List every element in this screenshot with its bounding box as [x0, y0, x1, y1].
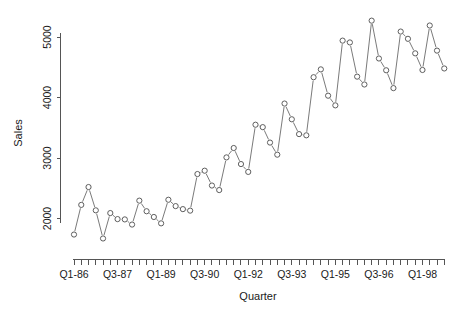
data-point-marker: Q1-93: 3055	[275, 152, 280, 157]
series-segment	[423, 29, 429, 67]
data-point-marker: Q2-96: 5270	[369, 18, 374, 23]
data-point-marker: Q3-86: 2520	[86, 184, 91, 189]
data-point-marker: Q2-90: 2735	[195, 171, 200, 176]
series-segment	[316, 72, 319, 75]
data-point-marker: Q1-98: 4455	[420, 67, 425, 72]
data-point-marker: Q2-89: 2310	[166, 197, 171, 202]
data-point-marker: Q2-92: 3550	[253, 122, 258, 127]
data-point-marker: Q4-96: 4450	[384, 68, 389, 73]
data-point-marker: Q4-92: 3255	[267, 140, 272, 145]
sales-by-quarter-line-chart: 2000300040005000 Q1-86Q3-87Q1-89Q3-90Q1-…	[0, 0, 466, 320]
data-point-marker: Q1-97: 4155	[391, 86, 396, 91]
data-point-marker: Q4-97: 4730	[413, 51, 418, 56]
series-segment	[431, 29, 436, 47]
x-axis-tick-label: Q1-95	[321, 268, 350, 280]
x-axis-tick-label: Q3-93	[277, 268, 306, 280]
data-point-marker: Q1-94: 3375	[304, 133, 309, 138]
series-segment	[330, 98, 333, 102]
x-axis-tick-label: Q3-90	[190, 268, 219, 280]
series-segment	[388, 74, 393, 85]
series-segment	[156, 219, 158, 221]
data-point-marker: Q3-93: 3640	[289, 117, 294, 122]
series-segment	[372, 24, 378, 55]
series-segment	[403, 34, 405, 36]
x-axis-tick-label: Q1-86	[59, 268, 88, 280]
series-segment	[220, 161, 226, 187]
x-axis-title: Quarter	[239, 290, 277, 302]
series-segment	[133, 204, 138, 221]
series-segment	[351, 46, 357, 73]
data-point-marker: Q4-88: 2025	[151, 214, 156, 219]
series-segment	[113, 215, 115, 217]
data-point-marker: Q3-94: 4465	[318, 67, 323, 72]
data-point-marker: Q4-93: 3395	[296, 132, 301, 137]
series-segment	[215, 187, 216, 188]
series-segment	[417, 57, 421, 67]
data-point-marker: Q3-92: 3510	[260, 125, 265, 130]
y-axis-tick-label: 3000	[41, 146, 53, 170]
series-segment	[410, 42, 414, 50]
series-segment	[394, 35, 400, 85]
data-point-marker: Q2-93: 3900	[282, 101, 287, 106]
series-segment	[90, 190, 95, 207]
x-axis: Q1-86Q3-87Q1-89Q3-90Q1-92Q3-93Q1-95Q3-96…	[59, 260, 445, 280]
data-point-marker: Q2-88: 2295	[137, 198, 142, 203]
series-segment	[272, 146, 276, 152]
data-point-marker: Q1-89: 1920	[159, 221, 164, 226]
data-point-marker: Q4-89: 2155	[180, 207, 185, 212]
y-axis: 2000300040005000	[41, 25, 61, 230]
series-segment	[128, 221, 130, 222]
x-axis-tick-label: Q3-87	[103, 268, 132, 280]
series-segment	[141, 204, 144, 209]
series-segment	[235, 151, 239, 161]
x-axis-tick-label: Q1-98	[408, 268, 437, 280]
data-point-marker: Q4-91: 2900	[238, 161, 243, 166]
data-point-marker: Q3-87: 1990	[115, 217, 120, 222]
series-segment	[75, 208, 81, 231]
series-segment	[264, 130, 268, 139]
series-segment	[293, 122, 297, 131]
data-point-marker: Q3-97: 4970	[405, 36, 410, 41]
series-segment	[171, 202, 173, 204]
data-point-marker: Q1-88: 1900	[129, 222, 134, 227]
data-point-marker: Q1-91: 2470	[217, 187, 222, 192]
series-segment	[438, 54, 443, 65]
series-segment	[83, 190, 88, 201]
data-point-marker: Q1-96: 4215	[362, 82, 367, 87]
data-point-marker: Q3-98: 4775	[434, 48, 439, 53]
data-point-marker: Q1-95: 3870	[333, 103, 338, 108]
series-segment	[191, 177, 197, 207]
data-point-marker: Q2-95: 4940	[340, 38, 345, 43]
series-segment	[336, 44, 342, 102]
data-point-marker: Q2-97: 5090	[398, 29, 403, 34]
y-axis-tick-label: 2000	[41, 207, 53, 231]
series-segment	[365, 24, 371, 81]
series-segment	[360, 79, 363, 82]
data-point-marker: Q2-94: 4335	[311, 75, 316, 80]
data-point-marker: Q1-92: 2770	[246, 169, 251, 174]
data-point-marker: Q2-98: 5190	[427, 23, 432, 28]
x-axis-tick-label: Q1-92	[234, 268, 263, 280]
data-point-marker: Q4-98: 4480	[442, 66, 447, 71]
series-segment	[229, 151, 232, 155]
series-segment	[322, 73, 327, 93]
data-point-marker: Q3-89: 2205	[173, 204, 178, 209]
x-axis-tick-label: Q3-96	[364, 268, 393, 280]
data-point-marker: Q3-95: 4910	[347, 40, 352, 45]
series-segment	[104, 216, 109, 235]
data-point-marker: Q1-86: 1735	[71, 232, 76, 237]
data-point-marker: Q2-91: 3010	[224, 155, 229, 160]
data-point-marker: Q4-86: 2135	[93, 208, 98, 213]
data-point-marker: Q3-91: 3165	[231, 145, 236, 150]
data-point-marker: Q4-95: 4345	[355, 74, 360, 79]
series-segment	[97, 214, 103, 235]
series-segment	[249, 128, 255, 168]
series-segment	[381, 61, 385, 67]
series-segment	[278, 107, 284, 151]
series-segment	[243, 167, 246, 170]
series-segment	[162, 203, 167, 220]
y-axis-title: Sales	[12, 119, 24, 147]
data-point-marker: Q4-87: 1985	[122, 217, 127, 222]
data-point-marker: Q3-88: 2120	[144, 209, 149, 214]
series-segment	[307, 81, 313, 132]
